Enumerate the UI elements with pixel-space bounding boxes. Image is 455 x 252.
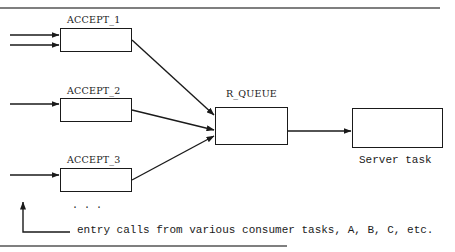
server-task-label: Server task [359, 154, 432, 166]
accept-1-label: ACCEPT_1 [67, 14, 120, 25]
caption-pointer-line [23, 202, 70, 232]
server-task-box [352, 108, 443, 148]
r-queue-label: R_QUEUE [226, 88, 277, 99]
r-queue-box [215, 107, 288, 145]
caption: entry calls from various consumer tasks,… [77, 224, 433, 236]
accept-1-box [60, 28, 132, 52]
arrow-accept-3-to-rqueue [132, 136, 214, 180]
arrow-accept-2-to-rqueue [132, 110, 214, 130]
entry-queue-diagram: ACCEPT_1 ACCEPT_2 ACCEPT_3 R_QUEUE Serve… [0, 0, 455, 252]
accept-3-label: ACCEPT_3 [67, 154, 120, 165]
ellipsis: . . . [72, 200, 102, 211]
arrow-accept-1-to-rqueue [132, 40, 214, 115]
accept-2-label: ACCEPT_2 [67, 85, 120, 96]
accept-2-box [60, 98, 132, 122]
accept-3-box [60, 168, 132, 192]
